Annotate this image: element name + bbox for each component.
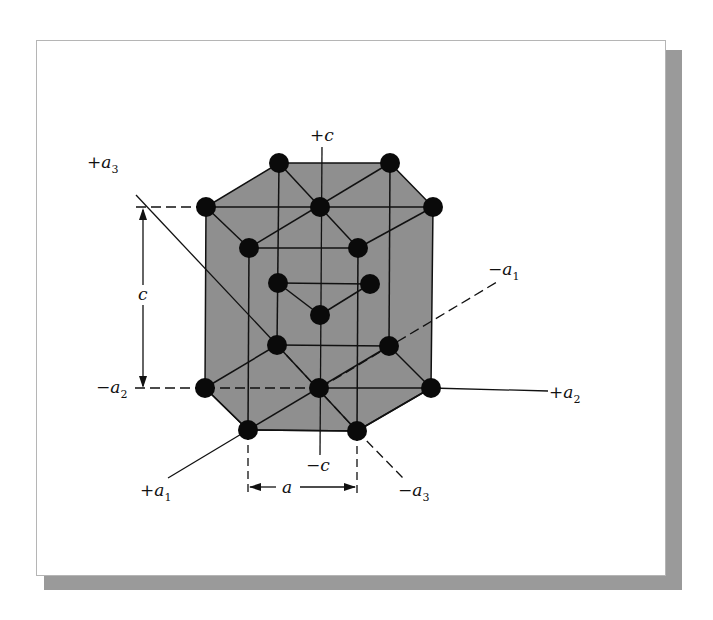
plus-a2-axis <box>431 388 548 391</box>
dimension-c-label: c <box>138 284 148 304</box>
plus-a1-axis <box>168 430 248 478</box>
label-plus-a1: +a1 <box>140 480 171 504</box>
hcp-diagram: +c +a3 −a1 −a2 +a2 −c +a1 −a3 c a <box>0 0 713 620</box>
dimension-a-label: a <box>282 477 292 497</box>
label-minus-a1: −a1 <box>488 259 519 283</box>
label-minus-c: −c <box>306 455 330 475</box>
label-minus-a3: −a3 <box>398 480 429 504</box>
label-minus-a2: −a2 <box>96 377 127 401</box>
label-plus-a2: +a2 <box>549 382 580 406</box>
label-plus-c: +c <box>310 125 334 145</box>
minus-a3-axis <box>357 431 405 480</box>
label-plus-a3: +a3 <box>87 152 118 176</box>
